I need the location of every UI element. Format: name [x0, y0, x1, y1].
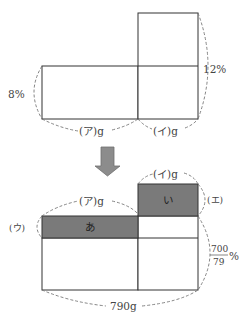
bottom-diagram: あ い (イ)g (ア)g (ウ) (エ) 700 79 % 790g [9, 168, 239, 312]
top-left-rect [42, 66, 138, 119]
left-percent-label: 8% [8, 88, 25, 100]
right-label: (エ) [207, 195, 223, 205]
fraction-unit: % [229, 250, 239, 262]
fraction-numerator: 700 [211, 244, 228, 254]
top-weight-label: (イ)g [153, 168, 178, 180]
fraction-denominator: 79 [213, 257, 225, 267]
top-diagram: 8% 12% (ア)g (イ)g [8, 13, 226, 137]
shaded-box-a-label: あ [85, 221, 95, 233]
left-label: (ウ) [9, 223, 25, 233]
left-top-weight-label: (ア)g [79, 195, 104, 207]
total-weight-label: 790g [110, 300, 137, 312]
shaded-box-i-label: い [163, 194, 173, 206]
right-weight-label: (イ)g [153, 125, 178, 137]
mixing-diagram: 8% 12% (ア)g (イ)g あ い (イ)g (ア)g [0, 0, 246, 324]
left-percent-brace [34, 66, 42, 119]
down-arrow-icon [95, 147, 120, 176]
left-weight-label: (ア)g [79, 125, 104, 137]
bottom-left-base-rect [42, 238, 138, 290]
bottom-right-base-rect [138, 216, 198, 290]
right-percent-label: 12% [203, 63, 226, 75]
